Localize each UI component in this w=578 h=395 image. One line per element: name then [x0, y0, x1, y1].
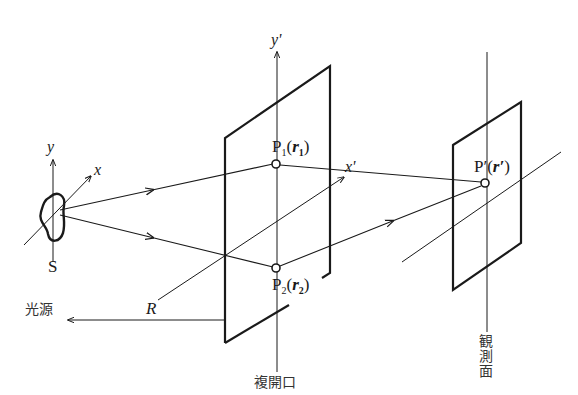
observation-name-label: 観測面	[478, 334, 492, 379]
source-x-label: x	[94, 162, 101, 178]
point-p-prime-label: P′(r′)	[474, 158, 510, 175]
source-blob	[40, 194, 64, 241]
aperture-name-label: 複開口	[254, 375, 296, 389]
distance-label: R	[146, 300, 156, 317]
aperture-x-label: x'	[345, 159, 356, 175]
point-p-prime	[481, 179, 489, 187]
source-y-label: y	[47, 139, 54, 155]
source-x-axis	[24, 176, 91, 245]
source-name-label: 光源	[25, 302, 53, 316]
point-p1-label: P1(r1)	[272, 138, 309, 158]
point-p1	[272, 160, 280, 168]
aperture-y-label: y'	[271, 32, 282, 48]
diffracted-rays	[280, 165, 481, 266]
incident-rays	[60, 164, 273, 267]
source-axes	[24, 160, 91, 262]
point-p2	[272, 264, 280, 272]
source-label: S	[48, 258, 57, 275]
point-p2-label: P2(r2)	[272, 276, 309, 296]
aperture-x-axis	[158, 177, 344, 300]
